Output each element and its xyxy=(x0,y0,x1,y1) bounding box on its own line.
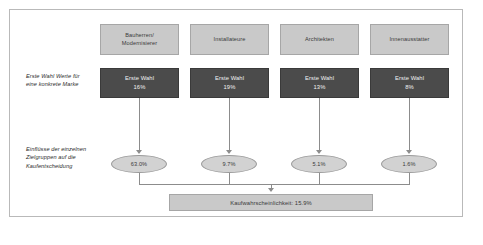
connector-line-col4 xyxy=(409,98,410,151)
choice-box-installateure: Erste Wahl 19% xyxy=(190,68,269,98)
row-label-first-choice-line2: eine konkrete Marke xyxy=(26,80,104,88)
influence-ellipse-architekten-value: 5.1% xyxy=(312,161,325,167)
choice-box-bauherren-label: Erste Wahl xyxy=(125,74,154,83)
connector-line-col3 xyxy=(319,98,320,151)
group-box-installateure: Installateure xyxy=(190,24,269,55)
group-box-bauherren: Bauherren/ Modernisierer xyxy=(100,24,179,55)
group-box-installateure-line1: Installateure xyxy=(214,36,246,44)
group-box-innenausstatter: Innenausstatter xyxy=(370,24,449,55)
influence-ellipse-bauherren-value: 63.0% xyxy=(131,161,147,167)
diagram-canvas: Erste Wahl Werte für eine konkrete Marke… xyxy=(0,0,483,245)
choice-box-architekten-value: 13% xyxy=(314,83,326,92)
influence-ellipse-architekten: 5.1% xyxy=(291,155,347,173)
choice-box-innenausstatter: Erste Wahl 8% xyxy=(370,68,449,98)
choice-box-innenausstatter-value: 8% xyxy=(405,83,414,92)
connector-line-col1-bottom xyxy=(139,173,140,184)
influence-ellipse-innenausstatter: 1.6% xyxy=(381,155,437,173)
choice-box-installateure-label: Erste Wahl xyxy=(215,74,244,83)
group-box-innenausstatter-line1: Innenausstatter xyxy=(389,36,429,44)
choice-box-architekten: Erste Wahl 13% xyxy=(280,68,359,98)
row-label-influence-line1: Einflüsse der einzelnen xyxy=(26,145,106,153)
row-label-first-choice: Erste Wahl Werte für eine konkrete Marke xyxy=(26,72,104,89)
result-bar-label: Kaufwahrscheinlichkeit: 15.9% xyxy=(230,200,312,206)
connector-line-col4-bottom xyxy=(409,173,410,184)
row-label-influence-line2: Zielgruppen auf die xyxy=(26,153,106,161)
choice-box-bauherren-value: 16% xyxy=(134,83,146,92)
connector-line-col2 xyxy=(229,98,230,151)
result-bar: Kaufwahrscheinlichkeit: 15.9% xyxy=(169,194,373,211)
group-box-architekten-line1: Architekten xyxy=(305,36,334,44)
influence-ellipse-bauherren: 63.0% xyxy=(111,155,167,173)
arrow-down-result xyxy=(268,188,274,192)
connector-line-col1 xyxy=(139,98,140,151)
influence-ellipse-installateure-value: 9.7% xyxy=(222,161,235,167)
group-box-bauherren-line2: Modernisierer xyxy=(122,40,158,48)
influence-ellipse-innenausstatter-value: 1.6% xyxy=(402,161,415,167)
connector-line-col3-bottom xyxy=(319,173,320,184)
row-label-influence-line3: Kaufentscheidung xyxy=(26,162,106,170)
connector-line-col2-bottom xyxy=(229,173,230,184)
group-box-bauherren-line1: Bauherren/ xyxy=(122,32,158,40)
influence-ellipse-installateure: 9.7% xyxy=(201,155,257,173)
choice-box-bauherren: Erste Wahl 16% xyxy=(100,68,179,98)
arrow-down-col3 xyxy=(316,150,322,154)
arrow-down-col2 xyxy=(226,150,232,154)
arrow-down-col4 xyxy=(406,150,412,154)
connector-bus-horizontal xyxy=(139,184,410,185)
row-label-influence: Einflüsse der einzelnen Zielgruppen auf … xyxy=(26,145,106,170)
row-label-first-choice-line1: Erste Wahl Werte für xyxy=(26,72,104,80)
arrow-down-col1 xyxy=(136,150,142,154)
choice-box-installateure-value: 19% xyxy=(224,83,236,92)
group-box-architekten: Architekten xyxy=(280,24,359,55)
choice-box-innenausstatter-label: Erste Wahl xyxy=(395,74,424,83)
choice-box-architekten-label: Erste Wahl xyxy=(305,74,334,83)
